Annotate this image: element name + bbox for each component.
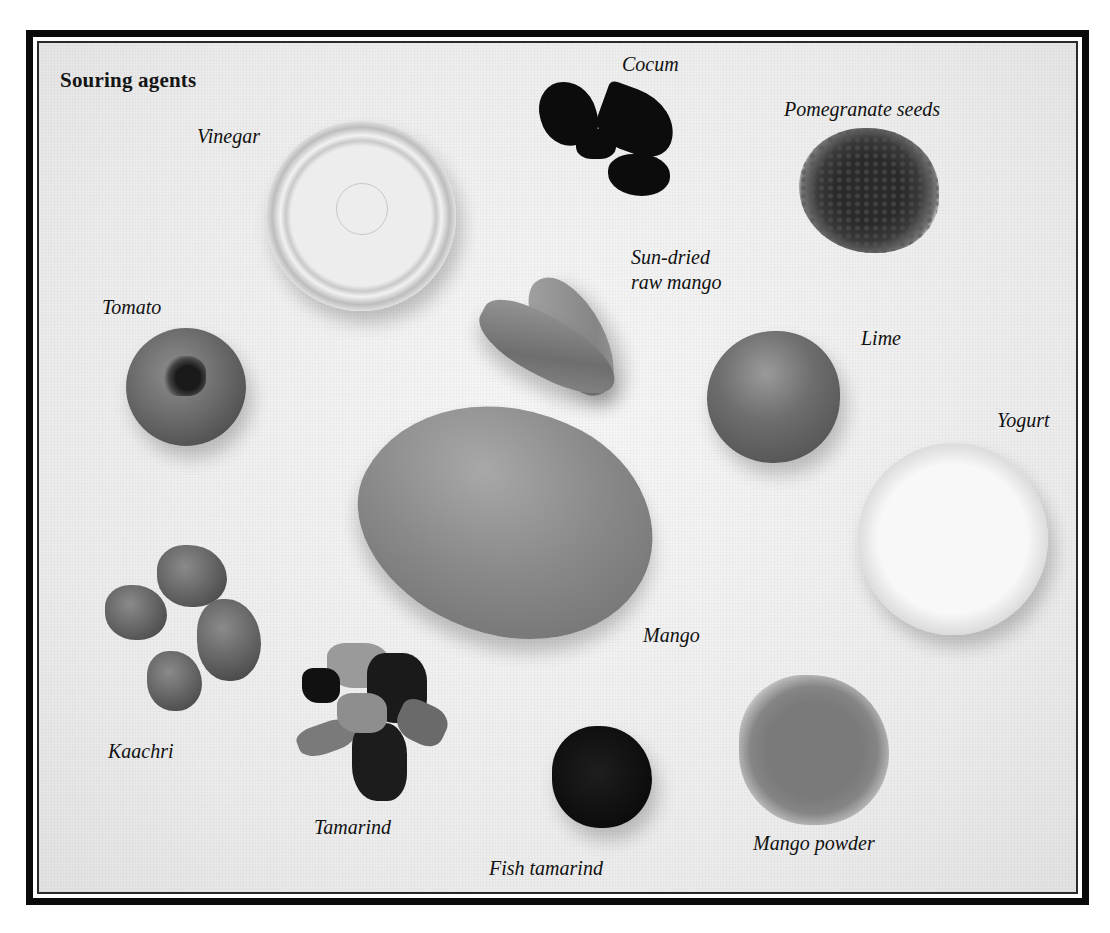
- label-mango-powder: Mango powder: [753, 832, 875, 855]
- label-kaachri: Kaachri: [108, 740, 174, 763]
- label-mango: Mango: [643, 624, 700, 647]
- label-fish-tamarind: Fish tamarind: [489, 857, 603, 880]
- mango-powder-pile: [739, 675, 889, 825]
- tomato: [126, 328, 246, 446]
- label-pomegranate-seeds: Pomegranate seeds: [784, 98, 940, 121]
- bowl-ring: [336, 183, 388, 235]
- mango: [322, 350, 690, 692]
- lime: [707, 331, 840, 463]
- kaachri-pieces: [105, 543, 275, 713]
- label-yogurt: Yogurt: [997, 409, 1050, 432]
- label-sun-dried: Sun-dried: [631, 246, 710, 269]
- label-tamarind: Tamarind: [314, 816, 391, 839]
- yogurt-bowl: [858, 443, 1048, 635]
- label-raw-mango: raw mango: [631, 271, 722, 294]
- photo-plate: Souring agents Vinegar Cocum Pomegranate…: [37, 41, 1078, 894]
- plate-title: Souring agents: [60, 68, 196, 93]
- pomegranate-seeds-pile: [799, 128, 939, 253]
- tomato-stem: [161, 356, 206, 396]
- photo-frame: Souring agents Vinegar Cocum Pomegranate…: [26, 30, 1089, 905]
- tamarind-pieces: [297, 643, 447, 803]
- vinegar-bowl: [266, 121, 456, 311]
- label-vinegar: Vinegar: [197, 125, 260, 148]
- cocum-pieces: [536, 69, 686, 199]
- label-lime: Lime: [861, 327, 901, 350]
- label-tomato: Tomato: [102, 296, 161, 319]
- label-cocum: Cocum: [622, 53, 679, 76]
- fish-tamarind: [552, 726, 652, 828]
